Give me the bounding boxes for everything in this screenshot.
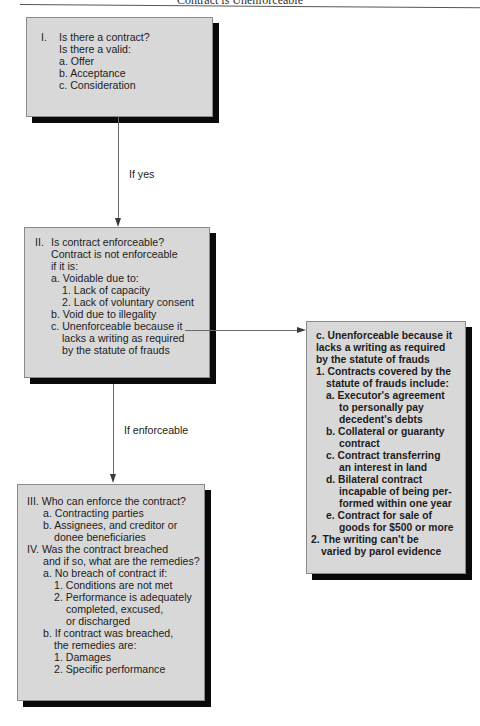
connector-line-enforceable (113, 384, 114, 476)
arrow-down-icon (115, 218, 121, 227)
edge-label-if-enforceable: If enforceable (124, 424, 188, 436)
box-text-line: by the statute of frauds (62, 344, 170, 356)
box-text-line: varied by parol evidence (321, 546, 441, 558)
box-text-line: 1. Conditions are not met (54, 579, 172, 591)
box-is-there-a-contract: I.Is there a contract?Is there a valid:a… (26, 17, 213, 117)
box-text-line: donee beneficiaries (54, 531, 146, 543)
box-text-line: an interest in land (339, 462, 427, 474)
box-is-contract-enforceable: II.Is contract enforceable?Contract is n… (24, 227, 210, 378)
box-text-line: 1. Contracts covered by the (316, 366, 451, 378)
box-text-line: to personally pay (339, 402, 424, 414)
box-text-line: b. If contract was breached, (43, 627, 173, 639)
box-text-line: and if so, what are the remedies? (43, 555, 200, 567)
box-text-line: IV. Was the contract breached (27, 543, 168, 555)
box-text-line: 1. Lack of capacity (62, 284, 150, 296)
box-text-line: II. (35, 236, 44, 248)
box-text-line: a. Voidable due to: (51, 272, 139, 284)
box-text-line: formed within one year (339, 498, 452, 510)
arrow-down-icon (110, 474, 116, 483)
box-text-line: Contract is not enforceable (51, 248, 178, 260)
box-text-line: d. Bilateral contract (326, 474, 422, 486)
box-text-line: incapable of being per- (339, 486, 452, 498)
box-text-line: goods for $500 or more (339, 522, 453, 534)
box-statute-of-frauds: c. Unenforceable because itlacks a writi… (306, 321, 466, 574)
box-text-line: decedent's debts (339, 414, 423, 426)
box-text-line: III. Who can enforce the contract? (27, 495, 186, 507)
box-text-line: b. Collateral or guaranty (326, 426, 444, 438)
box-text-line: b. Acceptance (59, 67, 126, 79)
box-text-line: lacks a writing as required (62, 332, 184, 344)
box-text-line: Is contract enforceable? (51, 236, 164, 248)
box-text-line: the remedies are: (54, 639, 136, 651)
box-text-line: Is there a valid: (59, 43, 131, 55)
edge-label-if-yes: If yes (129, 168, 154, 180)
connector-line-statute (185, 330, 299, 331)
arrow-right-icon (297, 327, 306, 333)
box-text-line: 1. Damages (54, 651, 111, 663)
box-text-line: c. Consideration (59, 79, 136, 91)
box-text-line: a. Offer (59, 55, 94, 67)
box-text-line: c. Unenforceable because it (51, 320, 182, 332)
box-who-can-enforce-and-remedies: III. Who can enforce the contract?a. Con… (17, 484, 205, 701)
box-text-line: a. No breach of contract if: (43, 567, 167, 579)
box-text-line: lacks a writing as required (316, 342, 445, 354)
box-text-line: statute of frauds include: (326, 378, 449, 390)
box-text-line: 2. The writing can't be (311, 534, 419, 546)
box-text-line: 2. Specific performance (54, 663, 165, 675)
connector-line-yes (118, 117, 119, 221)
box-text-line: 2. Lack of voluntary consent (62, 296, 194, 308)
box-text-line: I. (41, 31, 47, 43)
box-text-line: completed, excused, (66, 603, 163, 615)
box-text-line: by the statute of frauds (316, 354, 430, 366)
box-text-line: a. Contracting parties (43, 507, 144, 519)
box-text-line: c. Unenforceable because it (316, 330, 452, 342)
box-text-line: if it is: (51, 260, 78, 272)
box-text-line: 2. Performance is adequately (54, 591, 192, 603)
box-text-line: contract (339, 438, 380, 450)
box-text-line: c. Contract transferring (326, 450, 440, 462)
box-text-line: b. Assignees, and creditor or (43, 519, 177, 531)
box-text-line: or discharged (66, 615, 130, 627)
box-text-line: b. Void due to illegality (51, 308, 156, 320)
box-text-line: e. Contract for sale of (326, 510, 432, 522)
box-text-line: a. Executor's agreement (326, 390, 445, 402)
box-text-line: Is there a contract? (59, 31, 150, 43)
